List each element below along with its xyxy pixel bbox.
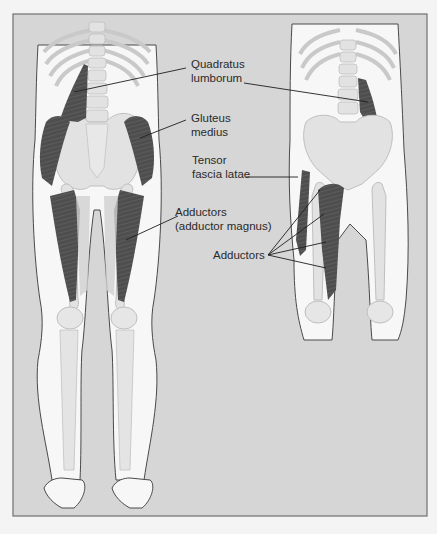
- posterior-spine: [86, 22, 108, 122]
- label-adductors: Adductors: [213, 249, 265, 261]
- anterior-knee-right: [367, 301, 393, 323]
- posterior-knee-right: [111, 307, 137, 329]
- anterior-knee-left: [305, 301, 331, 323]
- posterior-knee-left: [57, 307, 83, 329]
- anatomy-figure: Quadratus lumborum Gluteus medius Tensor…: [0, 0, 437, 534]
